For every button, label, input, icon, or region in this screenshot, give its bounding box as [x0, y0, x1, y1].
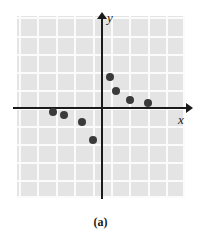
figure-caption: (a)	[0, 215, 201, 230]
x-axis-arrow-icon	[186, 103, 193, 113]
y-axis-arrow-icon	[97, 12, 107, 19]
y-axis-line	[101, 18, 103, 199]
data-point	[49, 108, 57, 116]
data-point	[144, 99, 152, 107]
scatter-plot-figure: y x (a)	[0, 0, 201, 244]
y-axis-label: y	[107, 11, 113, 24]
x-axis-label: x	[178, 113, 184, 126]
data-point	[126, 96, 134, 104]
